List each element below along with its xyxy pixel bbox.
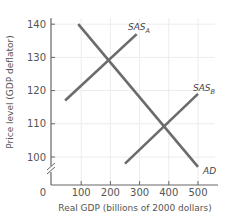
x-tick-label: 200 xyxy=(101,187,120,198)
x-tick-label: 300 xyxy=(130,187,149,198)
y-axis-label: Price level (GDP deflator) xyxy=(5,35,15,148)
x-tick-label: 500 xyxy=(188,187,207,198)
y-tick-label: 120 xyxy=(27,85,46,96)
y-tick-label: 140 xyxy=(27,19,46,30)
y-tick-label: 110 xyxy=(27,118,46,129)
axes: 100110120130140100200300400500 xyxy=(27,18,218,198)
y-tick-label: 130 xyxy=(27,52,46,63)
curve-label-ad: AD xyxy=(202,166,216,176)
curve-label-sas-b: SASB xyxy=(193,83,216,96)
x-tick-label: 100 xyxy=(72,187,91,198)
origin-label: 0 xyxy=(40,187,46,198)
x-tick-label: 400 xyxy=(159,187,178,198)
chart: 100110120130140100200300400500 ADSASASAS… xyxy=(0,0,229,223)
curve-ad xyxy=(78,24,198,167)
x-axis-label: Real GDP (billions of 2000 dollars) xyxy=(58,203,211,213)
y-tick-label: 100 xyxy=(27,152,46,163)
curves: ADSASASASB xyxy=(65,22,216,176)
